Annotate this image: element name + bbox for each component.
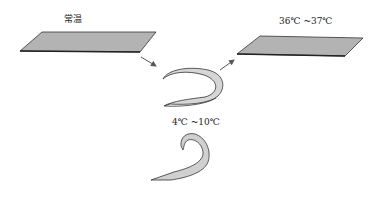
label-cold-temp: 4℃ ~10℃ <box>172 117 220 127</box>
flat-sheet-room-temp <box>20 32 156 52</box>
label-room-temp: 常温 <box>64 12 82 25</box>
flat-sheet-body-temp <box>237 36 363 56</box>
diagram-canvas <box>0 0 381 198</box>
arrow-to-flat <box>220 60 234 70</box>
curled-film-upper <box>163 68 223 106</box>
label-body-temp: 36℃ ~37℃ <box>279 16 332 26</box>
curled-film-lower <box>151 134 209 180</box>
arrow-to-curl <box>141 57 156 66</box>
